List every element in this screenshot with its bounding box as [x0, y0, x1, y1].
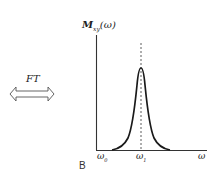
y-label-sub: xy [93, 25, 100, 32]
double-arrow-icon [10, 87, 54, 101]
x-tick-omega0: ω0 [97, 151, 108, 163]
y-label-main: M [82, 19, 93, 30]
y-axis-label: Mxy(ω) [82, 19, 116, 32]
y-label-arg: (ω) [100, 19, 116, 30]
panel-label: B [79, 160, 86, 171]
x-axis-label: ω [198, 151, 205, 161]
x-tick-omega1: ω1 [136, 151, 147, 163]
transform-label: FT [26, 73, 40, 84]
